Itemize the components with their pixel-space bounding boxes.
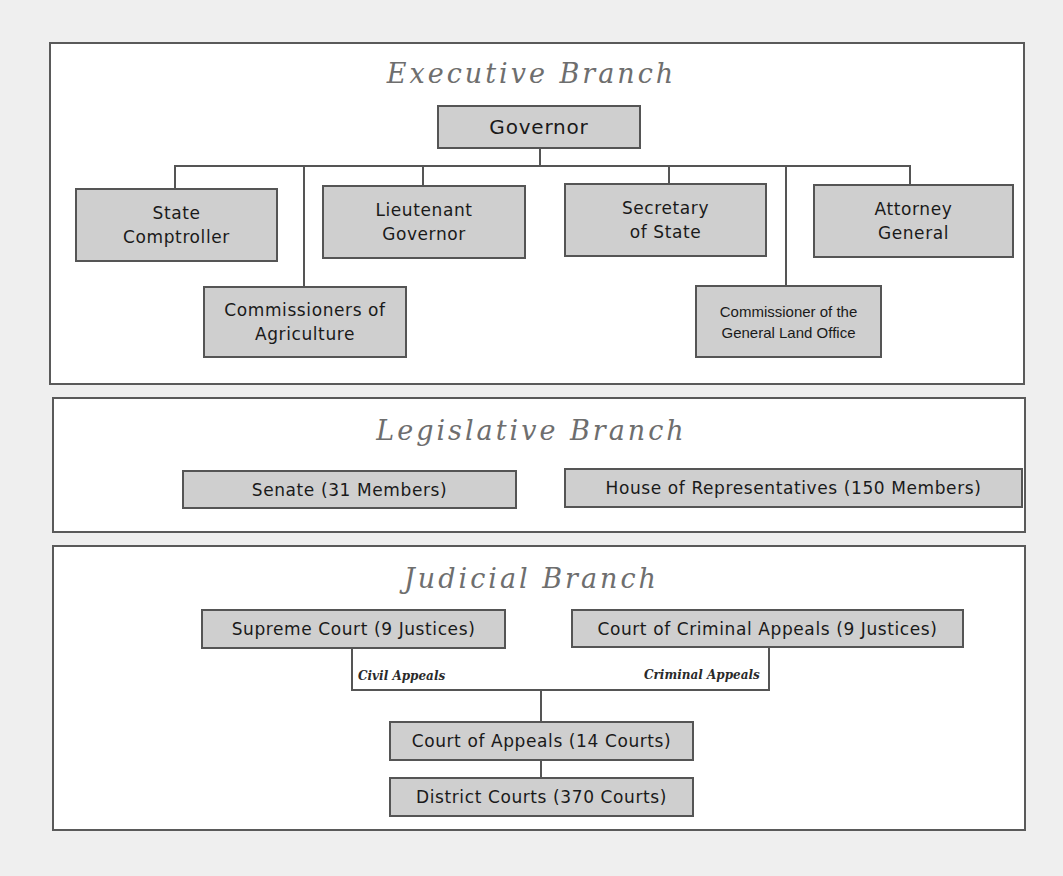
connector-agriculture [303, 165, 305, 287]
civil-appeals-label: Civil Appeals [358, 669, 445, 683]
legislative-branch-title: Legislative Branch [0, 415, 1063, 446]
judicial-branch-title: Judicial Branch [0, 563, 1063, 594]
senate-box: Senate (31 Members) [182, 470, 517, 509]
secretary-of-state-box: Secretary of State [564, 183, 767, 257]
land-office-commissioner-box: Commissioner of the General Land Office [695, 285, 882, 358]
supreme-court-box: Supreme Court (9 Justices) [201, 609, 506, 649]
district-courts-box: District Courts (370 Courts) [389, 777, 694, 817]
connector-civil-appeals [351, 649, 353, 691]
attorney-general-box: Attorney General [813, 184, 1014, 258]
connector-land-office [785, 165, 787, 286]
court-of-appeals-box: Court of Appeals (14 Courts) [389, 721, 694, 761]
court-of-criminal-appeals-box: Court of Criminal Appeals (9 Justices) [571, 609, 964, 648]
connector-criminal-appeals [768, 648, 770, 691]
connector-attorney-general [909, 165, 911, 185]
lieutenant-governor-box: Lieutenant Governor [322, 185, 526, 259]
state-comptroller-box: State Comptroller [75, 188, 278, 262]
commissioners-of-agriculture-box: Commissioners of Agriculture [203, 286, 407, 358]
connector-to-court-of-appeals [540, 689, 542, 722]
connector-secretary [668, 165, 670, 184]
connector-executive-horizontal [174, 165, 911, 167]
connector-lt-governor [422, 165, 424, 186]
connector-comptroller [174, 165, 176, 189]
connector-appeals-horizontal [351, 689, 770, 691]
connector-to-district-courts [540, 760, 542, 778]
executive-branch-title: Executive Branch [0, 58, 1063, 89]
governor-box: Governor [437, 105, 641, 149]
criminal-appeals-label: Criminal Appeals [644, 668, 760, 682]
house-of-representatives-box: House of Representatives (150 Members) [564, 468, 1023, 508]
